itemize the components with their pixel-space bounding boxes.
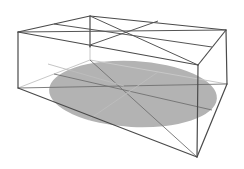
vertical-back-right-edge	[226, 30, 227, 84]
top-front-edge	[18, 32, 198, 65]
top-right-edge	[198, 30, 226, 65]
top-midline-2	[90, 21, 158, 45]
top-back-edge	[90, 16, 226, 30]
top-diagonal-2	[90, 16, 198, 65]
box-ellipse-diagram	[0, 0, 244, 169]
